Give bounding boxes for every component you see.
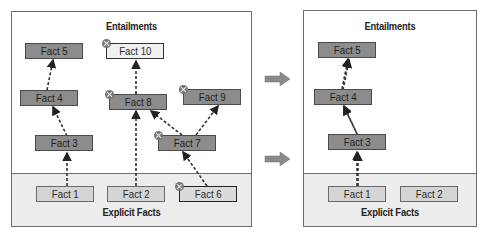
after-dependency-arrows [0, 0, 488, 237]
